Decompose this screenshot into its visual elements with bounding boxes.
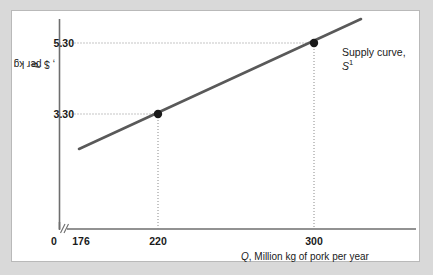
series-label-supply-curve: Supply curve, S1 — [342, 46, 419, 72]
supply-curve-line — [79, 19, 361, 149]
y-axis-label-rest: , $ per kg — [13, 60, 55, 71]
chart-panel: p, $ per kg 5.30 3.30 0 176 220 300 Q, M… — [11, 10, 420, 262]
series-label-superscript: 1 — [349, 58, 353, 67]
figure-root: p, $ per kg 5.30 3.30 0 176 220 300 Q, M… — [0, 0, 433, 275]
x-axis-label-symbol: Q — [241, 251, 249, 262]
data-point-220-330 — [154, 110, 162, 118]
x-tick-label-300: 300 — [300, 235, 328, 247]
data-point-300-530 — [310, 39, 318, 47]
x-tick-label-176: 176 — [67, 235, 95, 247]
y-axis-label-text: p, $ per kg — [29, 62, 40, 68]
x-axis-label: Q, Million kg of pork per year — [241, 251, 369, 262]
series-label-symbol: S — [342, 60, 349, 72]
x-tick-label-220: 220 — [144, 235, 172, 247]
series-label-prefix: Supply curve, — [342, 46, 406, 58]
x-tick-label-0: 0 — [43, 235, 65, 247]
x-axis-label-rest: , Million kg of pork per year — [249, 251, 369, 262]
y-tick-label-530: 5.30 — [18, 37, 74, 49]
y-tick-label-330: 3.30 — [18, 108, 74, 120]
